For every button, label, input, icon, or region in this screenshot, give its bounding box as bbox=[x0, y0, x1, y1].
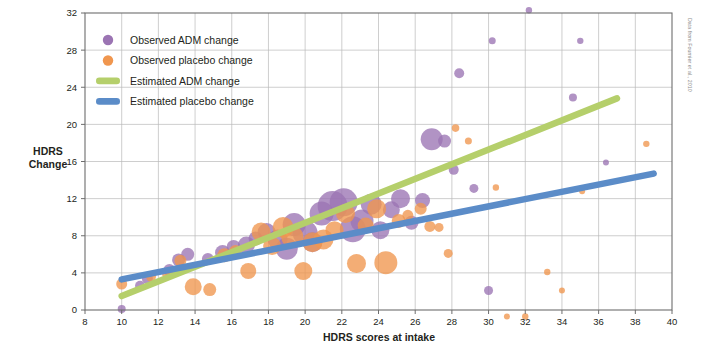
chart-background bbox=[0, 0, 705, 351]
x-tick-label: 40 bbox=[667, 316, 678, 327]
y-tick-label: 28 bbox=[66, 45, 77, 56]
data-point-bubble bbox=[444, 249, 453, 258]
data-point-bubble bbox=[569, 93, 577, 101]
legend-observed-placebo-label: Observed placebo change bbox=[130, 54, 253, 66]
x-tick-label: 14 bbox=[190, 316, 201, 327]
source-attribution: Data from Fournier et al., 2010 bbox=[687, 18, 693, 92]
data-point-bubble bbox=[465, 138, 472, 145]
y-tick-label: 20 bbox=[66, 119, 77, 130]
y-tick-label: 8 bbox=[72, 230, 77, 241]
data-point-bubble bbox=[438, 135, 451, 148]
data-point-bubble bbox=[391, 189, 410, 208]
x-tick-label: 22 bbox=[337, 316, 348, 327]
data-point-bubble bbox=[489, 37, 496, 44]
legend-estimated-adm-swatch bbox=[96, 78, 120, 85]
chart-figure: 810121416182022242628303234363840 048121… bbox=[0, 0, 705, 351]
legend-estimated-placebo-swatch bbox=[96, 98, 120, 105]
data-point-bubble bbox=[544, 269, 550, 275]
x-tick-label: 30 bbox=[483, 316, 494, 327]
data-point-bubble bbox=[484, 286, 493, 295]
data-point-bubble bbox=[454, 68, 464, 78]
x-tick-label: 28 bbox=[447, 316, 458, 327]
x-tick-label: 32 bbox=[520, 316, 531, 327]
y-tick-label: 16 bbox=[66, 156, 77, 167]
x-tick-label: 20 bbox=[300, 316, 311, 327]
data-point-bubble bbox=[203, 283, 216, 296]
data-point-bubble bbox=[643, 141, 649, 147]
legend-observed-placebo-swatch bbox=[103, 55, 113, 65]
x-tick-label: 38 bbox=[630, 316, 641, 327]
data-point-bubble bbox=[294, 262, 312, 280]
data-point-bubble bbox=[367, 199, 386, 218]
data-point-bubble bbox=[347, 254, 366, 273]
x-tick-label: 36 bbox=[593, 316, 604, 327]
x-tick-label: 24 bbox=[373, 316, 384, 327]
legend-observed-adm-swatch bbox=[103, 35, 113, 45]
data-point-bubble bbox=[577, 38, 583, 44]
data-point-bubble bbox=[185, 278, 202, 295]
x-tick-label: 8 bbox=[82, 316, 87, 327]
data-point-bubble bbox=[452, 124, 460, 132]
legend-estimated-placebo-label: Estimated placebo change bbox=[130, 95, 254, 107]
data-point-bubble bbox=[493, 184, 499, 190]
y-tick-label: 12 bbox=[66, 193, 77, 204]
data-point-bubble bbox=[415, 203, 427, 215]
y-tick-label: 0 bbox=[72, 304, 77, 315]
x-tick-label: 10 bbox=[116, 316, 127, 327]
x-tick-label: 16 bbox=[226, 316, 237, 327]
data-point-bubble bbox=[240, 263, 256, 279]
data-point-bubble bbox=[374, 251, 397, 274]
y-axis-title-line-2: Change bbox=[29, 158, 68, 170]
y-axis-title-line-1: HDRS bbox=[33, 145, 63, 157]
x-tick-label: 18 bbox=[263, 316, 274, 327]
x-tick-label: 34 bbox=[557, 316, 568, 327]
y-tick-label: 4 bbox=[72, 267, 77, 278]
y-tick-label: 32 bbox=[66, 7, 77, 18]
legend-observed-adm-label: Observed ADM change bbox=[130, 34, 239, 46]
data-point-bubble bbox=[424, 221, 435, 232]
y-tick-label: 24 bbox=[66, 82, 77, 93]
data-point-bubble bbox=[603, 159, 609, 165]
x-axis-title: HDRS scores at intake bbox=[323, 331, 435, 343]
data-point-bubble bbox=[559, 288, 565, 294]
x-tick-label: 26 bbox=[410, 316, 421, 327]
legend-estimated-adm-label: Estimated ADM change bbox=[130, 75, 240, 87]
scatter-chart: 810121416182022242628303234363840 048121… bbox=[0, 0, 705, 351]
data-point-bubble bbox=[469, 184, 478, 193]
data-point-bubble bbox=[504, 314, 510, 320]
data-point-bubble bbox=[435, 223, 444, 232]
x-tick-label: 12 bbox=[153, 316, 164, 327]
